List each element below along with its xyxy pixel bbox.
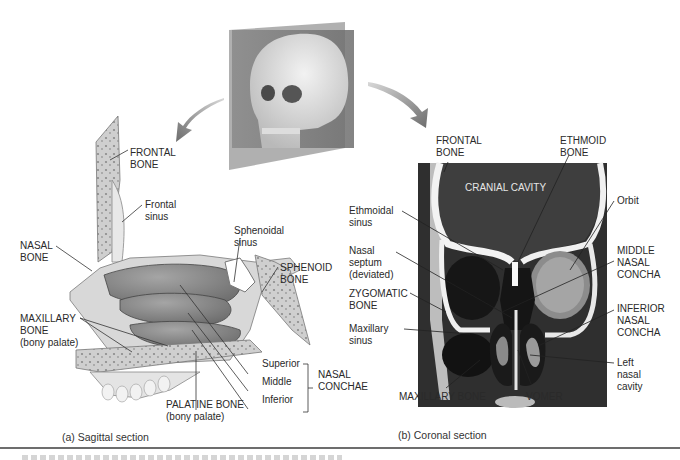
- label-cranial-cavity: CRANIAL CAVITY: [465, 182, 546, 194]
- label-vomer: VOMER: [526, 391, 563, 403]
- label-middle-concha: Middle: [262, 376, 291, 388]
- label-sphenoidal-sinus: Sphenoidal sinus: [234, 225, 284, 249]
- label-nasal-bone: NASAL BONE: [20, 240, 53, 264]
- label-ethmoidal-sinus: Ethmoidal sinus: [349, 205, 393, 229]
- caption-coronal: (b) Coronal section: [398, 429, 487, 441]
- label-palatine-bone: PALATINE BONE (bony palate): [166, 399, 244, 423]
- clipped-figure-legend: [22, 455, 342, 460]
- label-inferior-nasal-concha: INFERIOR NASAL CONCHA: [617, 303, 665, 339]
- label-maxillary-sinus: Maxillary sinus: [349, 323, 388, 347]
- label-superior-concha: Superior: [262, 358, 300, 370]
- label-maxillary-bone-sagittal: MAXILLARY BONE (bony palate): [20, 313, 78, 349]
- label-frontal-bone-coronal: FRONTAL BONE: [436, 135, 482, 159]
- label-left-nasal-cavity: Left nasal cavity: [617, 357, 643, 393]
- label-inferior-concha: Inferior: [262, 394, 293, 406]
- label-sphenoid-bone: SPHENOID BONE: [280, 262, 332, 286]
- label-ethmoid-bone: ETHMOID BONE: [560, 135, 606, 159]
- coronal-ct-graphic: [418, 163, 607, 408]
- caption-divider: [0, 447, 680, 449]
- arrow-to-sagittal-icon: [176, 98, 224, 142]
- label-nasal-conchae: NASAL CONCHAE: [318, 369, 368, 393]
- skull-planes-graphic: [229, 22, 354, 170]
- arrow-to-coronal-icon: [368, 82, 428, 128]
- label-maxillary-bone-coronal: MAXILLARY BONE: [399, 391, 486, 403]
- label-middle-nasal-concha: MIDDLE NASAL CONCHA: [617, 245, 660, 281]
- caption-sagittal: (a) Sagittal section: [62, 431, 149, 443]
- label-zygomatic-bone: ZYGOMATIC BONE: [349, 288, 408, 312]
- label-frontal-sinus: Frontal sinus: [145, 199, 176, 223]
- label-orbit: Orbit: [617, 195, 639, 207]
- label-nasal-septum: Nasal septum (deviated): [349, 245, 393, 281]
- label-frontal-bone-sagittal: FRONTAL BONE: [130, 147, 176, 171]
